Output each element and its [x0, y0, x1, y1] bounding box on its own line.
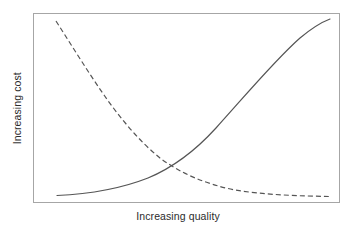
y-axis-label-container: Increasing cost [0, 0, 34, 216]
x-axis-label: Increasing quality [0, 211, 356, 222]
chart-figure: Increasing cost Increasing quality [0, 0, 356, 232]
y-axis-label: Increasing cost [12, 72, 23, 144]
plot-area [0, 0, 356, 232]
